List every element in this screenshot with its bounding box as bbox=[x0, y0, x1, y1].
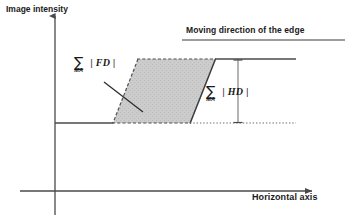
fd-summation-icon: ∑ MA bbox=[74, 55, 83, 69]
hd-annotation: ∑ MA | HD | bbox=[206, 84, 249, 98]
fd-term-label: | FD | bbox=[90, 57, 115, 68]
hd-term-label: | HD | bbox=[222, 86, 248, 97]
moving-direction-label: Moving direction of the edge bbox=[186, 26, 305, 36]
x-axis-label: Horizontal axis bbox=[252, 192, 318, 202]
hd-summation-icon: ∑ MA bbox=[206, 84, 215, 98]
edge-parallelogram-fill bbox=[113, 59, 215, 123]
fd-annotation: ∑ MA | FD | bbox=[74, 55, 116, 69]
figure-canvas: Image intensity Horizontal axis Moving d… bbox=[0, 0, 360, 221]
hd-summation-subscript: MA bbox=[206, 97, 215, 103]
diagram-svg bbox=[0, 0, 360, 221]
y-axis-label: Image intensity bbox=[6, 5, 52, 15]
fd-summation-subscript: MA bbox=[74, 68, 83, 74]
